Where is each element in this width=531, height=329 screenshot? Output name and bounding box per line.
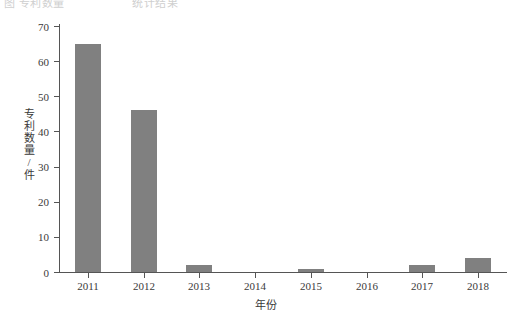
y-tick-label: 10 [38, 232, 49, 243]
y-tick-label: 30 [38, 162, 49, 173]
x-tick [311, 273, 312, 278]
x-tick [367, 273, 368, 278]
caption-fragment-right: 统计结果 [132, 0, 178, 9]
bar [465, 258, 491, 272]
bar [131, 110, 157, 272]
y-tick-label: 20 [38, 197, 49, 208]
bar [186, 265, 212, 272]
x-tick-label: 2012 [133, 281, 155, 292]
y-axis-title: 专利数量/件 [20, 108, 36, 181]
x-tick-label: 2015 [300, 281, 322, 292]
x-tick [88, 273, 89, 278]
y-tick-label: 70 [38, 21, 49, 32]
x-tick-label: 2011 [77, 281, 99, 292]
bar-series [60, 26, 506, 272]
caption-fragment-left: 图 专利数量 [4, 0, 65, 9]
y-tick-label: 50 [38, 91, 49, 102]
chart-figure: 图 专利数量 统计结果 010203040506070 201120122013… [0, 0, 531, 329]
bar [298, 269, 324, 273]
cut-off-caption: 图 专利数量 统计结果 [0, 0, 531, 9]
x-tick [199, 273, 200, 278]
x-tick-label: 2018 [467, 281, 489, 292]
x-tick [255, 273, 256, 278]
y-tick-label: 40 [38, 126, 49, 137]
x-tick [478, 273, 479, 278]
x-tick-label: 2014 [244, 281, 266, 292]
bar [409, 265, 435, 272]
x-tick [422, 273, 423, 278]
bar [75, 44, 101, 272]
y-tick: 0 [54, 272, 60, 273]
x-axis-title: 年份 [0, 296, 531, 312]
x-axis-line [59, 272, 507, 273]
x-tick-label: 2017 [411, 281, 433, 292]
y-tick-label: 60 [38, 56, 49, 67]
y-tick-label: 0 [44, 267, 50, 278]
x-tick [144, 273, 145, 278]
x-tick-label: 2013 [188, 281, 210, 292]
x-tick-label: 2016 [356, 281, 378, 292]
